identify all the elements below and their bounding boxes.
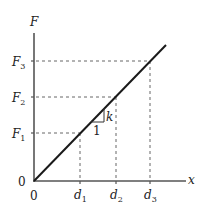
- force-line: [34, 45, 166, 181]
- y-tick-f3: F3: [11, 55, 25, 71]
- y-tick-f2: F2: [11, 91, 25, 107]
- y-axis-label: F: [29, 15, 39, 29]
- x-tick-d1: d1: [74, 188, 87, 204]
- slope-run-label: 1: [93, 124, 101, 138]
- slope-rise-label: k: [106, 110, 113, 124]
- origin-x-label: 0: [30, 189, 38, 203]
- x-tick-d3: d3: [144, 188, 157, 204]
- x-tick-d2: d2: [110, 188, 123, 204]
- x-axis-label: x: [188, 173, 195, 187]
- y-tick-f1: F1: [11, 127, 25, 143]
- origin-y-label: 0: [18, 175, 26, 189]
- force-displacement-diagram: 1 k F x 0 0 F1 F2 F3 d1 d2 d3: [0, 0, 208, 212]
